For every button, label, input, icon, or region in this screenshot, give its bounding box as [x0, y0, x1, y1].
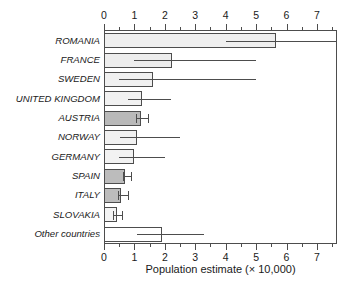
x-tick-label-3-top: 3: [185, 9, 205, 21]
x-tick-label-7-bot: 7: [307, 251, 327, 263]
error-bar-norway: [120, 137, 180, 138]
x-tick-label-7-top: 7: [307, 9, 327, 21]
x-minor-tick-bot: [302, 244, 303, 247]
x-minor-tick-top: [119, 27, 120, 30]
x-tick-2-bot: [165, 244, 166, 250]
x-tick-7-top: [317, 24, 318, 30]
error-bar-france: [134, 60, 256, 61]
top-axis-line: [104, 30, 337, 31]
x-tick-4-bot: [226, 244, 227, 250]
x-tick-0-top: [104, 24, 105, 30]
x-minor-tick-bot: [271, 244, 272, 247]
category-label-austria: AUSTRIA: [58, 112, 100, 123]
error-bar-united-kingdom: [128, 99, 171, 100]
x-minor-tick-top: [332, 27, 333, 30]
x-tick-6-bot: [287, 244, 288, 250]
x-tick-label-1-top: 1: [124, 9, 144, 21]
error-bar-slovakia: [113, 215, 122, 216]
x-minor-tick-bot: [180, 244, 181, 247]
x-tick-3-top: [195, 24, 196, 30]
category-label-spain: SPAIN: [72, 170, 100, 181]
x-tick-0-bot: [104, 244, 105, 250]
x-tick-label-2-top: 2: [155, 9, 175, 21]
category-label-romania: ROMANIA: [55, 35, 100, 46]
x-minor-tick-bot: [332, 244, 333, 247]
x-tick-label-5-bot: 5: [246, 251, 266, 263]
x-tick-6-top: [287, 24, 288, 30]
x-tick-label-6-bot: 6: [277, 251, 297, 263]
x-tick-1-bot: [134, 244, 135, 250]
error-cap-low-slovakia: [113, 211, 114, 220]
x-tick-2-top: [165, 24, 166, 30]
x-tick-7-bot: [317, 244, 318, 250]
x-minor-tick-top: [241, 27, 242, 30]
error-bar-sweden: [119, 79, 256, 80]
error-cap-high-spain: [131, 172, 132, 181]
error-cap-low-austria: [136, 114, 137, 123]
x-tick-label-4-top: 4: [216, 9, 236, 21]
x-minor-tick-bot: [241, 244, 242, 247]
x-minor-tick-top: [271, 27, 272, 30]
category-label-norway: NORWAY: [58, 131, 100, 142]
x-tick-3-bot: [195, 244, 196, 250]
x-tick-label-3-bot: 3: [185, 251, 205, 263]
category-label-other-countries: Other countries: [34, 228, 100, 239]
population-estimate-bar-chart: 0011223344556677 ROMANIAFRANCESWEDENUNIT…: [0, 0, 347, 287]
error-bar-other-countries: [137, 234, 204, 235]
x-minor-tick-top: [210, 27, 211, 30]
x-tick-5-bot: [256, 244, 257, 250]
x-minor-tick-bot: [150, 244, 151, 247]
error-cap-low-spain: [123, 172, 124, 181]
x-tick-5-top: [256, 24, 257, 30]
x-tick-label-0-top: 0: [94, 9, 114, 21]
error-bar-italy: [118, 195, 128, 196]
x-tick-label-1-bot: 1: [124, 251, 144, 263]
x-minor-tick-top: [302, 27, 303, 30]
category-label-italy: ITALY: [75, 189, 100, 200]
x-axis-title: Population estimate (× 10,000): [104, 263, 337, 275]
x-tick-label-2-bot: 2: [155, 251, 175, 263]
category-label-slovakia: SLOVAKIA: [53, 209, 100, 220]
error-bar-romania: [226, 41, 337, 42]
error-cap-high-austria: [148, 114, 149, 123]
x-minor-tick-bot: [210, 244, 211, 247]
category-label-france: FRANCE: [61, 54, 100, 65]
error-bar-spain: [123, 176, 132, 177]
x-tick-1-top: [134, 24, 135, 30]
x-tick-label-5-top: 5: [246, 9, 266, 21]
x-tick-label-0-bot: 0: [94, 251, 114, 263]
error-cap-high-italy: [128, 191, 129, 200]
x-tick-label-6-top: 6: [277, 9, 297, 21]
x-minor-tick-top: [180, 27, 181, 30]
error-cap-low-italy: [118, 191, 119, 200]
category-label-sweden: SWEDEN: [58, 73, 100, 84]
category-label-united-kingdom: UNITED KINGDOM: [16, 93, 100, 104]
x-tick-label-4-bot: 4: [216, 251, 236, 263]
error-cap-high-slovakia: [122, 211, 123, 220]
x-minor-tick-bot: [119, 244, 120, 247]
error-bar-austria: [136, 118, 148, 119]
x-minor-tick-top: [150, 27, 151, 30]
category-label-germany: GERMANY: [51, 151, 100, 162]
x-tick-4-top: [226, 24, 227, 30]
error-bar-germany: [119, 157, 165, 158]
